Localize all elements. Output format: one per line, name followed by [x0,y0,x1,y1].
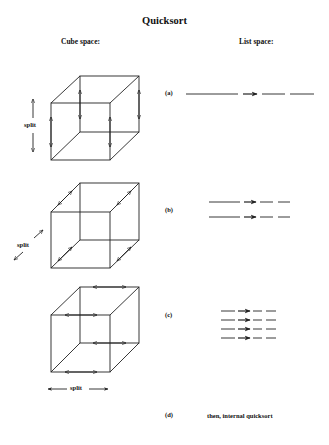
cube-c-split-arrows [65,287,126,372]
split-arrow-depth [14,230,43,260]
diagram-canvas [0,0,329,445]
list-b [209,202,290,217]
cube-a-split-arrows [51,90,139,147]
list-c [221,311,276,338]
cube-a [51,76,139,160]
cube-c [51,287,139,372]
cube-b-split-arrows [58,191,131,261]
